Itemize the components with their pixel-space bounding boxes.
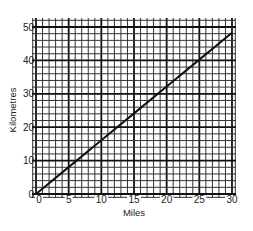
x-tick-label: 10 — [96, 194, 108, 205]
y-tick-label: 40 — [23, 55, 35, 66]
y-axis-label: Kilometres — [7, 87, 18, 132]
y-tick-label: 0 — [28, 189, 34, 200]
x-tick-label: 30 — [226, 194, 238, 205]
x-axis-label: Miles — [123, 207, 145, 218]
x-tick-label: 5 — [66, 194, 72, 205]
y-tick-label: 30 — [23, 88, 35, 99]
conversion-chart: 01020304050 051015202530 Miles Kilometre… — [0, 0, 253, 231]
y-tick-label: 50 — [23, 22, 35, 33]
y-tick-label: 10 — [23, 155, 35, 166]
y-tick-label: 20 — [23, 122, 35, 133]
x-tick-label: 20 — [161, 194, 173, 205]
x-tick-label: 15 — [128, 194, 140, 205]
x-tick-label: 25 — [194, 194, 206, 205]
x-axis-ticks: 051015202530 — [35, 194, 239, 205]
x-tick-label: 0 — [36, 194, 42, 205]
